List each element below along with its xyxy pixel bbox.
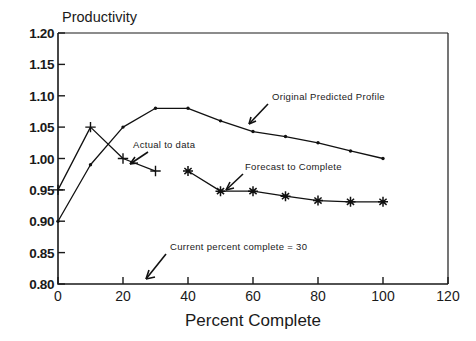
marker-dot-0-9 (349, 149, 352, 152)
marker-plus-1-3 (150, 166, 160, 176)
annotation-forecast-to-complete: Forecast to Complete (226, 161, 342, 190)
annotation-label-current-percent-complete: Current percent complete = 30 (170, 241, 307, 252)
y-axis-ticks (58, 33, 65, 284)
x-axis-labels: 0 20 40 60 80 100 120 (54, 288, 460, 304)
marker-dot-0-8 (316, 141, 319, 144)
marker-star-2-4 (313, 196, 323, 206)
annotation-label-original-predicted-profile: Original Predicted Profile (272, 91, 385, 102)
y-axis-title: Productivity (62, 9, 138, 25)
y-tick-label-6: 1.10 (29, 89, 54, 104)
marker-star-2-1 (216, 186, 226, 196)
y-tick-label-5: 1.05 (29, 120, 55, 135)
marker-dot-0-7 (284, 135, 287, 138)
x-tick-label-4: 80 (310, 288, 326, 304)
marker-star-2-3 (281, 191, 291, 201)
y-tick-label-7: 1.15 (29, 57, 55, 72)
annotation-original-predicted-profile: Original Predicted Profile (249, 91, 385, 124)
x-tick-label-3: 60 (245, 288, 261, 304)
x-tick-label-2: 40 (180, 288, 196, 304)
marker-dot-0-0 (56, 220, 59, 223)
marker-dot-0-5 (219, 119, 222, 122)
annotation-arrow-line-1 (249, 104, 268, 124)
y-tick-label-4: 1.00 (29, 152, 54, 167)
x-tick-label-1: 20 (115, 288, 131, 304)
series-forecast-to-complete (183, 166, 388, 207)
annotation-actual-to-data: Actual to data (130, 139, 196, 164)
y-tick-label-8: 1.20 (29, 26, 54, 41)
marker-dot-0-2 (121, 125, 124, 128)
annotation-arrow-line-3 (226, 174, 243, 190)
series-actual-to-date (53, 122, 161, 195)
annotation-arrow-line-2 (130, 152, 148, 164)
marker-star-2-0 (183, 166, 193, 176)
y-tick-label-0: 0.80 (29, 277, 54, 292)
marker-dot-0-6 (251, 130, 254, 133)
annotation-arrow-line-4 (146, 254, 166, 279)
x-tick-label-5: 100 (371, 288, 395, 304)
x-tick-label-0: 0 (54, 288, 62, 304)
annotation-label-actual-to-data: Actual to data (133, 139, 196, 150)
x-tick-label-6: 120 (436, 288, 460, 304)
y-tick-label-3: 0.95 (29, 183, 55, 198)
marker-dot-0-1 (89, 163, 92, 166)
x-axis-ticks (58, 277, 448, 284)
annotation-label-forecast-to-complete: Forecast to Complete (245, 161, 342, 172)
x-axis-title: Percent Complete (185, 311, 321, 330)
chart-svg: Productivity 0.80 0.85 0.90 0.95 1.00 1.… (0, 0, 476, 341)
y-axis-labels: 0.80 0.85 0.90 0.95 1.00 1.05 1.10 1.15 … (29, 26, 55, 292)
marker-star-2-6 (378, 197, 388, 207)
marker-dot-0-3 (154, 107, 157, 110)
productivity-chart: Productivity 0.80 0.85 0.90 0.95 1.00 1.… (0, 0, 476, 341)
series-line-1 (58, 127, 156, 190)
marker-dot-0-4 (186, 107, 189, 110)
annotation-current-percent-complete: Current percent complete = 30 (146, 241, 307, 279)
y-tick-label-1: 0.85 (29, 246, 55, 261)
marker-dot-0-10 (381, 157, 384, 160)
marker-star-2-2 (248, 186, 258, 196)
y-tick-label-2: 0.90 (29, 214, 54, 229)
marker-plus-1-0 (53, 185, 63, 195)
marker-star-2-5 (346, 197, 356, 207)
